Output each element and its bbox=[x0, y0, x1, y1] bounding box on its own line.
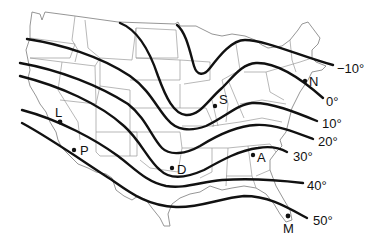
label-0: 0° bbox=[326, 94, 338, 109]
label-30: 30° bbox=[293, 149, 313, 164]
svg-text:A: A bbox=[257, 150, 266, 165]
svg-text:M: M bbox=[283, 221, 294, 236]
label-20: 20° bbox=[318, 134, 338, 149]
label-50: 50° bbox=[313, 213, 333, 228]
svg-text:N: N bbox=[309, 74, 318, 89]
isotherm-map: −10° 0° 10° 20° 30° 40° 50° N S L P D bbox=[0, 0, 380, 244]
us-outline bbox=[26, 12, 326, 226]
svg-text:S: S bbox=[219, 92, 228, 107]
svg-text:D: D bbox=[177, 162, 186, 177]
label-10: 10° bbox=[322, 116, 342, 131]
label-minus10: −10° bbox=[337, 61, 364, 76]
svg-text:P: P bbox=[80, 143, 89, 158]
label-40: 40° bbox=[307, 178, 327, 193]
svg-text:L: L bbox=[55, 105, 62, 120]
